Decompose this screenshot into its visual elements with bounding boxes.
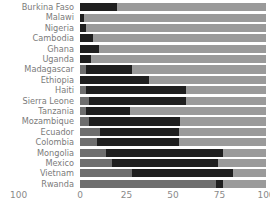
- x-axis-tick-label: 0: [77, 191, 83, 200]
- bar-row: [80, 14, 266, 22]
- bar-row: [80, 159, 266, 167]
- bar-segment-low: [80, 180, 216, 188]
- bar-segment-low: [80, 97, 89, 105]
- bar-segment-high: [99, 45, 266, 53]
- bar-segment-high: [149, 76, 266, 84]
- category-label: Sierra Leone: [0, 96, 77, 106]
- bar-segment-mid: [100, 128, 178, 136]
- bar-segment-high: [186, 97, 266, 105]
- bar-row: [80, 3, 266, 11]
- bar-row: [80, 24, 266, 32]
- stacked-bar-chart: Burkina FasoMalawiNigeriaCambodiaGhanaUg…: [0, 0, 270, 213]
- bar-segment-mid: [86, 107, 131, 115]
- bar-segment-high: [233, 169, 266, 177]
- bar-segment-low: [80, 117, 89, 125]
- bar-segment-mid: [80, 34, 93, 42]
- bar-segment-low: [80, 128, 100, 136]
- x-axis: 0255075100: [80, 190, 266, 210]
- bar-segment-mid: [89, 97, 186, 105]
- category-label: Vietnam: [0, 168, 77, 178]
- category-label: Burkina Faso: [0, 2, 77, 12]
- bar-segment-mid: [89, 117, 180, 125]
- bar-segment-mid: [106, 149, 223, 157]
- bar-segment-mid: [86, 65, 133, 73]
- category-label: Tanzania: [0, 106, 77, 116]
- bar-segment-mid: [80, 55, 91, 63]
- bar-segment-high: [179, 138, 266, 146]
- bar-segment-high: [180, 117, 266, 125]
- category-label: Mongolia: [0, 147, 77, 157]
- x-axis-tick-label: 50: [167, 191, 178, 200]
- category-label: Madagascar: [0, 64, 77, 74]
- category-label: Nigeria: [0, 23, 77, 33]
- bar-segment-high: [186, 86, 266, 94]
- bar-segment-mid: [132, 169, 232, 177]
- bar-segment-high: [179, 128, 266, 136]
- category-axis-labels: Burkina FasoMalawiNigeriaCambodiaGhanaUg…: [0, 2, 77, 189]
- bar-row: [80, 107, 266, 115]
- bar-segment-high: [130, 107, 266, 115]
- bar-segment-high: [218, 159, 266, 167]
- bar-row: [80, 55, 266, 63]
- bar-row: [80, 117, 266, 125]
- bar-segment-high: [132, 65, 266, 73]
- bar-segment-mid: [86, 86, 186, 94]
- bar-segment-high: [84, 14, 266, 22]
- bar-segment-mid: [80, 76, 149, 84]
- bar-row: [80, 149, 266, 157]
- bar-segment-mid: [80, 3, 117, 11]
- category-label: Haiti: [0, 85, 77, 95]
- bar-segment-low: [80, 138, 97, 146]
- bar-segment-high: [117, 3, 266, 11]
- category-label: Mozambique: [0, 116, 77, 126]
- bar-row: [80, 45, 266, 53]
- bar-segment-high: [223, 149, 266, 157]
- category-label: Uganda: [0, 54, 77, 64]
- x-axis-tick-label: 75: [214, 191, 225, 200]
- bar-segment-mid: [97, 138, 179, 146]
- x-axis-tick-label: 25: [121, 191, 132, 200]
- category-label: Ecuador: [0, 127, 77, 137]
- category-label: Colombia: [0, 137, 77, 147]
- category-label: Rwanda: [0, 179, 77, 189]
- category-label: Ethiopia: [0, 75, 77, 85]
- bar-segment-mid: [112, 159, 218, 167]
- category-label: Ghana: [0, 44, 77, 54]
- bar-row: [80, 65, 266, 73]
- bar-segment-high: [86, 24, 266, 32]
- bar-segment-mid: [216, 180, 223, 188]
- bar-segment-high: [91, 55, 266, 63]
- x-axis-tick-label: 100: [257, 191, 270, 200]
- bar-row: [80, 138, 266, 146]
- category-label: Malawi: [0, 12, 77, 22]
- bar-segment-high: [93, 34, 266, 42]
- bar-row: [80, 169, 266, 177]
- bar-row: [80, 76, 266, 84]
- bar-row: [80, 180, 266, 188]
- bar-segment-low: [80, 169, 132, 177]
- bar-segment-low: [80, 159, 112, 167]
- bar-segment-mid: [80, 45, 99, 53]
- bar-row: [80, 86, 266, 94]
- bar-segment-high: [223, 180, 266, 188]
- bar-row: [80, 34, 266, 42]
- bar-row: [80, 128, 266, 136]
- bar-row: [80, 97, 266, 105]
- left-axis-label: 100: [10, 191, 27, 200]
- category-label: Cambodia: [0, 33, 77, 43]
- category-label: Mexico: [0, 158, 77, 168]
- plot-area: [80, 2, 266, 189]
- bar-segment-low: [80, 149, 106, 157]
